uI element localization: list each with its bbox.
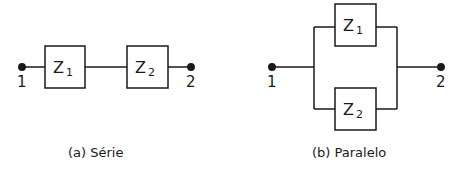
series-circuit (19, 46, 194, 88)
z1-label: Z1 (343, 16, 363, 37)
terminal-1-dot (269, 64, 275, 70)
terminal-2-label: 2 (436, 73, 446, 91)
z2-label: Z2 (135, 58, 155, 79)
terminal-2-dot (438, 64, 444, 70)
terminal-2-dot (188, 64, 194, 70)
z1-label: Z1 (53, 58, 73, 79)
caption-parallel: (b) Paralelo (312, 145, 386, 160)
terminal-1-label: 1 (267, 73, 277, 91)
caption-series: (a) Série (68, 145, 123, 160)
terminal-1-dot (19, 64, 25, 70)
terminal-1-label: 1 (17, 73, 27, 91)
terminal-2-label: 2 (186, 73, 196, 91)
z2-label: Z2 (343, 100, 363, 121)
